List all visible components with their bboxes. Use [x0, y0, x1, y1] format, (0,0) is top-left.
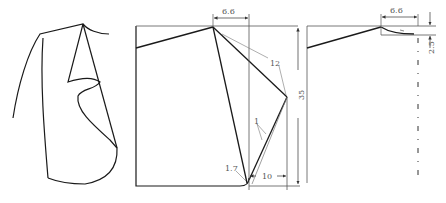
dim-bottom-width: 10: [262, 172, 272, 181]
collar-draft: [307, 12, 436, 183]
dim-top-width-main: 6.6: [222, 7, 235, 16]
dim-lapel-length: 12: [270, 59, 280, 68]
dim-roll-offset: 1: [254, 117, 259, 126]
pattern-diagram: 6.6 12 35 1 10 1.7 6.6 2.5: [0, 0, 446, 203]
dim-top-width-right: 6.6: [390, 6, 403, 15]
dim-height: 35: [297, 90, 306, 100]
dim-collar-drop: 2.5: [427, 41, 436, 54]
dim-corner-radius: 1.7: [225, 164, 238, 173]
jacket-lapel-sketch: [13, 24, 117, 184]
main-draft: [136, 14, 300, 190]
